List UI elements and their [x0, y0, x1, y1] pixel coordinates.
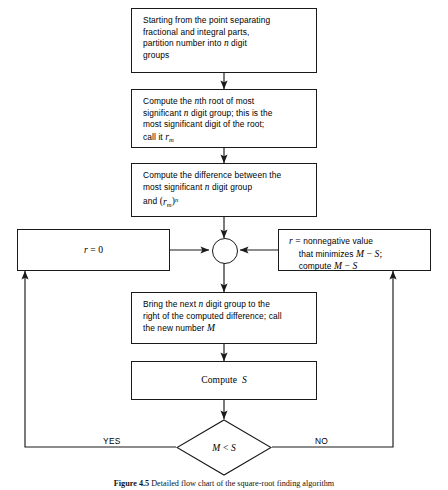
process-compute-s-label: Compute S	[201, 374, 247, 387]
figure-caption-text: Detailed flow chart of the square-root f…	[151, 479, 334, 488]
flowchart-figure: Starting from the point separatingfracti…	[0, 0, 448, 490]
process-set-r-zero: r = 0	[17, 229, 170, 271]
process-compute-difference-label: Compute the difference between themost s…	[143, 170, 306, 210]
process-partition-number: Starting from the point separatingfracti…	[131, 8, 317, 73]
connector-merge-point	[212, 238, 238, 264]
process-compute-nonnegative-r: r = nonnegative value that minimizes M −…	[278, 229, 431, 271]
decision-label: M < S	[176, 419, 272, 476]
process-bring-next-digit-group-label: Bring the next n digit group to theright…	[143, 299, 306, 335]
process-compute-difference: Compute the difference between themost s…	[131, 163, 317, 217]
decision-m-less-than-s: M < S	[176, 419, 272, 476]
process-compute-nth-root-label: Compute the nth root of mostsignificant …	[143, 96, 306, 145]
branch-label-no: NO	[313, 436, 330, 446]
process-partition-number-label: Starting from the point separatingfracti…	[143, 15, 306, 61]
process-set-r-zero-label: r = 0	[84, 244, 103, 257]
process-bring-next-digit-group: Bring the next n digit group to theright…	[131, 292, 317, 344]
process-compute-nonnegative-r-label: r = nonnegative value that minimizes M −…	[289, 235, 422, 273]
branch-label-yes: YES	[101, 436, 123, 446]
figure-caption: Figure 4.5 Detailed flow chart of the sq…	[0, 479, 448, 488]
process-compute-nth-root: Compute the nth root of mostsignificant …	[131, 89, 317, 148]
process-compute-s: Compute S	[131, 361, 317, 400]
figure-caption-number: Figure 4.5	[114, 479, 149, 488]
